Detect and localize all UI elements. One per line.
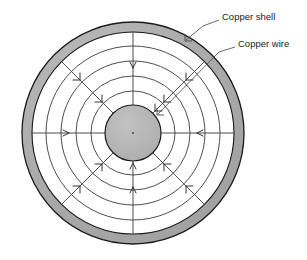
physics-diagram-figure: Copper shell Copper wire [0, 0, 307, 260]
center-dot [132, 132, 134, 134]
copper-wire-core [105, 105, 161, 161]
copper-shell-label: Copper shell [222, 11, 275, 22]
copper-wire-label: Copper wire [238, 38, 289, 49]
coaxial-cable-diagram: Copper shell Copper wire [0, 0, 307, 260]
